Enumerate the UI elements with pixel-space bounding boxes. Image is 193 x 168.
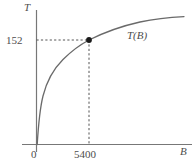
curve-label-tb: T(B)	[127, 30, 147, 41]
y-tick-label-152: 152	[6, 35, 23, 46]
graph-figure: T B 152 5400 0 T(B)	[0, 0, 193, 168]
x-axis-label: B	[180, 146, 187, 157]
marked-point	[86, 37, 92, 43]
tb-curve	[37, 17, 184, 145]
plot-canvas	[0, 0, 193, 168]
origin-label: 0	[31, 149, 37, 160]
y-axis-label: T	[24, 2, 30, 13]
x-tick-label-5400: 5400	[74, 149, 96, 160]
